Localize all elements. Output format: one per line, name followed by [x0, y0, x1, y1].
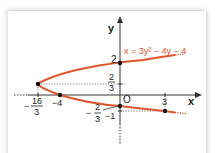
x-tick-neg16-3-num: 16 [32, 96, 42, 106]
y-tick-neg2-3-num: 2 [95, 102, 100, 112]
y-axis-label: y [108, 22, 115, 34]
y-tick-2-3-den: 3 [109, 83, 114, 93]
y-tick-neg1: −1 [105, 111, 115, 121]
parabola-graph: y x O x = 3y² − 4y − 4 2 2 3 − 2 3 −1 − … [0, 0, 215, 153]
x-axis-arrow-icon [195, 92, 202, 98]
leader-line [103, 106, 118, 110]
y-tick-2: 2 [111, 54, 117, 65]
x-tick-neg16-3-minus: − [24, 101, 29, 111]
curve-lower-extension [175, 113, 186, 114]
x-tick-neg16-3-den: 3 [34, 107, 39, 117]
equation-label: x = 3y² − 4y − 4 [124, 46, 186, 56]
y-tick-2-3-num: 2 [109, 72, 114, 82]
x-axis-label: x [188, 95, 195, 107]
point-0-neg2-3 [118, 104, 122, 108]
y-axis-arrow-icon [117, 16, 123, 23]
vertex-point [36, 82, 40, 86]
point-0-2 [118, 61, 122, 65]
y-tick-neg2-3-den: 3 [95, 114, 100, 124]
point-3-neg1 [163, 109, 167, 113]
x-tick-neg4: −4 [52, 98, 62, 108]
y-tick-neg2-3-minus: − [86, 108, 91, 118]
point-neg4-0 [58, 93, 62, 97]
origin-label: O [123, 94, 131, 105]
x-tick-3: 3 [162, 97, 167, 107]
